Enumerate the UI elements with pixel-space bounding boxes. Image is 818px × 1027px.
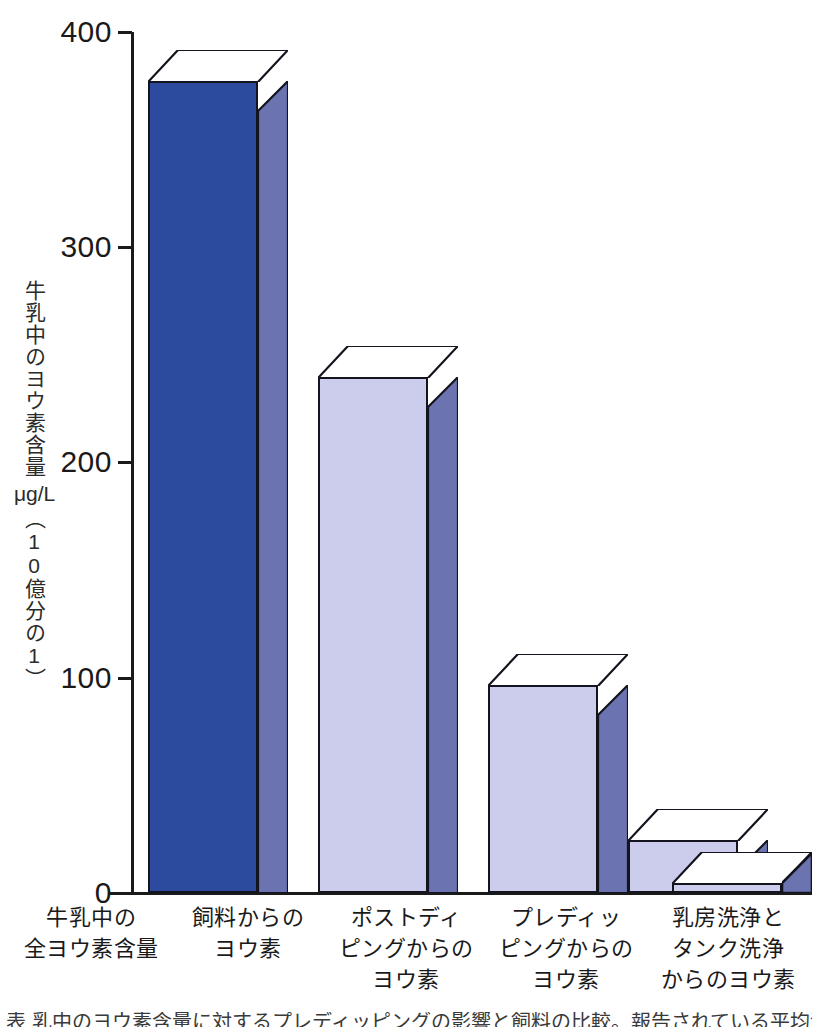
bar-1-top-face	[148, 50, 288, 80]
x-label-5-line-3: からのヨウ素	[640, 964, 816, 995]
x-label-2: 飼料からの ヨウ素	[160, 902, 336, 964]
y-axis-title-paren: （10億分の1）	[23, 508, 46, 690]
x-label-3: ポストディ ピングからの ヨウ素	[318, 902, 494, 995]
x-label-1-line-2: 全ヨウ素含量	[3, 933, 179, 964]
bar-5	[672, 0, 812, 893]
y-tick-100	[118, 677, 132, 680]
x-label-5-line-1: 乳房洗浄と	[640, 902, 816, 933]
y-axis-title-main: 牛乳中のヨウ素含量	[23, 280, 46, 478]
x-label-5-line-2: タンク洗浄	[640, 933, 816, 964]
bar-2-front-face	[318, 377, 428, 893]
y-tick-200	[118, 461, 132, 464]
x-label-4-line-1: プレディッ	[478, 902, 654, 933]
bottom-caption: 表 乳中のヨウ素含量に対するプレディッピングの影響と飼料の比較。報告されている平…	[6, 1012, 812, 1027]
x-label-4-line-2: ピングからの	[478, 933, 654, 964]
y-tick-400	[118, 31, 132, 34]
bar-1-side-face	[258, 81, 288, 893]
y-tick-label-300: 300	[28, 232, 112, 262]
y-tick-0	[118, 892, 132, 895]
bar-2-side-face	[428, 377, 458, 893]
x-label-3-line-1: ポストディ	[318, 902, 494, 933]
bar-3-side-face	[598, 685, 628, 893]
x-label-2-line-2: ヨウ素	[160, 933, 336, 964]
y-tick-300	[118, 246, 132, 249]
y-axis-title-unit: μg/L	[14, 482, 54, 506]
bar-1	[148, 0, 288, 893]
y-axis-title: 牛乳中のヨウ素含量 μg/L （10億分の1）	[14, 280, 54, 690]
x-label-4-line-3: ヨウ素	[478, 964, 654, 995]
bar-2-top-face	[318, 346, 458, 376]
bar-chart: 400 300 200 100 0 牛乳中のヨウ素含量 μg/L （10億分の1…	[0, 0, 818, 1027]
x-label-3-line-2: ピングからの	[318, 933, 494, 964]
x-label-1-line-1: 牛乳中の	[3, 902, 179, 933]
bar-2	[318, 0, 458, 893]
bar-3	[488, 0, 628, 893]
x-label-1: 牛乳中の 全ヨウ素含量	[3, 902, 179, 964]
x-label-2-line-1: 飼料からの	[160, 902, 336, 933]
bar-5-front-face	[672, 883, 782, 893]
x-label-4: プレディッ ピングからの ヨウ素	[478, 902, 654, 995]
bar-3-front-face	[488, 685, 598, 893]
bar-1-front-face	[148, 81, 258, 893]
y-tick-label-400: 400	[28, 17, 112, 47]
bar-5-side-face	[782, 883, 812, 893]
x-label-5: 乳房洗浄と タンク洗浄 からのヨウ素	[640, 902, 816, 995]
x-label-3-line-3: ヨウ素	[318, 964, 494, 995]
bar-3-top-face	[488, 654, 628, 684]
